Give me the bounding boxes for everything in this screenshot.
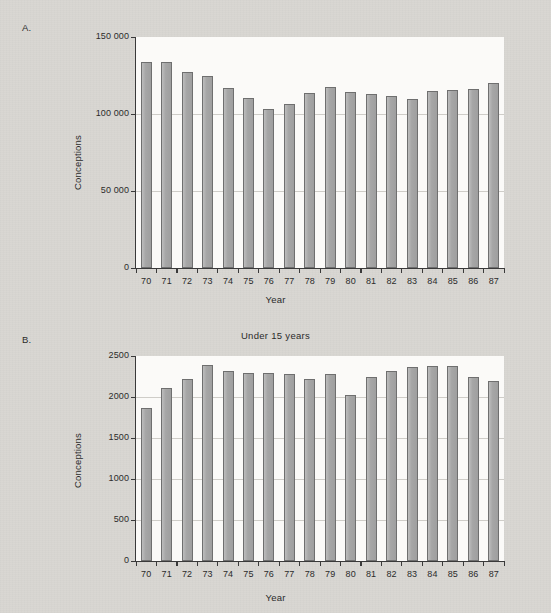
x-tick-mark: [299, 268, 300, 273]
x-tick-mark: [381, 561, 382, 566]
x-tick-mark: [320, 561, 321, 566]
y-tick-mark: [131, 438, 136, 439]
panel-a-x-axis-title: Year: [0, 294, 551, 305]
x-tick-label: 87: [480, 276, 508, 286]
x-tick-mark: [401, 268, 402, 273]
y-tick-label: 0: [46, 262, 129, 272]
bar: [325, 87, 336, 268]
x-tick-mark: [422, 561, 423, 566]
x-tick-mark: [463, 561, 464, 566]
bar: [407, 367, 418, 561]
x-tick-mark: [156, 268, 157, 273]
x-tick-mark: [360, 561, 361, 566]
panel-b-y-axis-title: Conceptions: [72, 433, 83, 488]
bar: [141, 62, 152, 268]
x-tick-mark: [197, 268, 198, 273]
x-tick-mark: [442, 561, 443, 566]
panel-b-plot-area: [136, 356, 504, 561]
y-tick-mark: [131, 479, 136, 480]
x-tick-mark: [442, 268, 443, 273]
bar: [141, 408, 152, 561]
bar: [284, 374, 295, 561]
bar: [263, 109, 274, 268]
panel-a-y-axis-title: Conceptions: [72, 135, 83, 190]
panel-b-title: Under 15 years: [0, 330, 551, 341]
bar: [304, 379, 315, 561]
x-tick-mark: [136, 561, 137, 566]
x-tick-mark: [238, 268, 239, 273]
x-tick-mark: [340, 268, 341, 273]
bar: [447, 366, 458, 561]
bar: [243, 98, 254, 268]
x-tick-mark: [279, 268, 280, 273]
x-tick-mark: [258, 561, 259, 566]
y-tick-mark: [131, 37, 136, 38]
y-tick-mark: [131, 356, 136, 357]
y-tick-label: 100 000: [46, 108, 129, 118]
bar: [263, 373, 274, 561]
x-tick-mark: [217, 268, 218, 273]
bar: [427, 91, 438, 268]
y-tick-mark: [131, 114, 136, 115]
x-tick-mark: [401, 561, 402, 566]
x-tick-mark: [320, 268, 321, 273]
x-tick-label: 87: [480, 569, 508, 579]
bar: [407, 99, 418, 268]
panel-a-plot-area: [136, 37, 504, 268]
bar: [243, 373, 254, 561]
x-tick-mark: [483, 268, 484, 273]
bar: [161, 62, 172, 268]
bar: [386, 371, 397, 561]
bar: [325, 374, 336, 561]
x-tick-mark: [381, 268, 382, 273]
x-tick-mark: [483, 561, 484, 566]
y-tick-label: 2000: [46, 391, 129, 401]
bar: [161, 388, 172, 561]
x-tick-mark: [136, 268, 137, 273]
x-tick-mark: [422, 268, 423, 273]
bar: [304, 93, 315, 268]
x-tick-mark: [340, 561, 341, 566]
bar: [182, 379, 193, 561]
bar: [468, 89, 479, 268]
y-tick-label: 50 000: [46, 185, 129, 195]
bar: [284, 104, 295, 268]
panel-a-bars: [136, 37, 504, 268]
y-tick-label: 2500: [46, 350, 129, 360]
y-tick-label: 1500: [46, 432, 129, 442]
bar: [366, 94, 377, 268]
panel-a-letter: A.: [22, 22, 31, 33]
x-tick-mark: [197, 561, 198, 566]
bar: [223, 88, 234, 268]
bar: [182, 72, 193, 268]
x-tick-mark: [258, 268, 259, 273]
x-tick-mark: [176, 268, 177, 273]
x-tick-mark: [217, 561, 218, 566]
x-tick-mark: [156, 561, 157, 566]
bar: [447, 90, 458, 268]
panel-a-y-axis-line: [135, 37, 136, 269]
y-tick-label: 500: [46, 514, 129, 524]
y-tick-label: 1000: [46, 473, 129, 483]
panel-b-bars: [136, 356, 504, 561]
panel-b-y-axis-line: [135, 356, 136, 562]
x-tick-mark: [463, 268, 464, 273]
x-tick-mark: [176, 561, 177, 566]
bar: [488, 381, 499, 561]
x-tick-mark: [504, 268, 505, 273]
panel-b-x-axis-title: Year: [0, 592, 551, 603]
bar: [366, 377, 377, 562]
x-tick-mark: [299, 561, 300, 566]
bar: [488, 83, 499, 268]
y-tick-mark: [131, 191, 136, 192]
x-tick-mark: [360, 268, 361, 273]
x-tick-mark: [504, 561, 505, 566]
bar: [468, 377, 479, 561]
y-tick-mark: [131, 520, 136, 521]
y-tick-mark: [131, 397, 136, 398]
bar: [386, 96, 397, 268]
x-tick-mark: [238, 561, 239, 566]
y-tick-label: 0: [46, 555, 129, 565]
bar: [202, 76, 213, 268]
bar: [345, 92, 356, 268]
